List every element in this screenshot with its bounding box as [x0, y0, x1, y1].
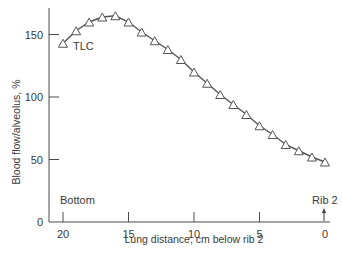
x-tick-label: 0	[322, 228, 328, 240]
triangle-marker-icon	[294, 147, 303, 155]
rib2-annotation: Rib 2	[312, 194, 338, 206]
x-tick-label: 20	[57, 228, 69, 240]
tlc-annotation: TLC	[73, 40, 94, 52]
triangle-marker-icon	[85, 18, 94, 26]
blood-flow-chart: 05010015020151050 Blood flow/alveolus, %…	[0, 0, 342, 257]
triangle-marker-icon	[307, 153, 316, 161]
y-tick-label: 0	[37, 216, 43, 228]
triangle-marker-icon	[124, 18, 133, 26]
bottom-annotation: Bottom	[60, 194, 95, 206]
y-tick-label: 50	[31, 154, 43, 166]
x-axis-label: Lung distance, cm below rib 2	[125, 233, 264, 245]
triangle-marker-icon	[321, 158, 330, 166]
y-tick-label: 150	[25, 29, 43, 41]
y-axis-label: Blood flow/alveolus, %	[10, 79, 22, 184]
y-tick-label: 100	[25, 91, 43, 103]
data-series	[59, 12, 330, 166]
rib2-arrow-icon	[322, 208, 326, 221]
